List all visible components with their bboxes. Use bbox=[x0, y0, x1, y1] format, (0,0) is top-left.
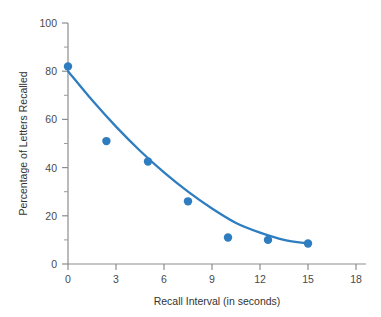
y-tick-label-20: 20 bbox=[45, 210, 57, 222]
y-tick-label-80: 80 bbox=[45, 65, 57, 77]
x-axis-title: Recall Interval (in seconds) bbox=[154, 295, 281, 307]
x-tick-label-15: 15 bbox=[302, 273, 314, 285]
x-tick-label-12: 12 bbox=[254, 273, 266, 285]
x-tick-label-0: 0 bbox=[65, 273, 71, 285]
data-point bbox=[184, 197, 192, 205]
x-axis-ticks bbox=[68, 264, 356, 270]
recall-decay-chart: 0 20 40 60 80 100 0 3 6 9 12 15 18 Recal… bbox=[0, 0, 381, 317]
data-point bbox=[144, 157, 152, 165]
y-tick-label-60: 60 bbox=[45, 113, 57, 125]
data-point bbox=[304, 239, 312, 247]
data-point bbox=[64, 62, 72, 70]
chart-container: 0 20 40 60 80 100 0 3 6 9 12 15 18 Recal… bbox=[0, 0, 381, 317]
y-axis-title: Percentage of Letters Recalled bbox=[17, 71, 29, 215]
y-tick-label-0: 0 bbox=[51, 258, 57, 270]
data-point bbox=[102, 137, 110, 145]
decay-curve bbox=[68, 71, 308, 243]
y-tick-label-100: 100 bbox=[39, 17, 57, 29]
data-point bbox=[264, 236, 272, 244]
y-tick-label-40: 40 bbox=[45, 162, 57, 174]
x-tick-label-9: 9 bbox=[209, 273, 215, 285]
data-point bbox=[224, 233, 232, 241]
x-tick-label-6: 6 bbox=[161, 273, 167, 285]
x-tick-label-3: 3 bbox=[113, 273, 119, 285]
data-points-group bbox=[64, 62, 312, 248]
x-tick-label-18: 18 bbox=[350, 273, 362, 285]
